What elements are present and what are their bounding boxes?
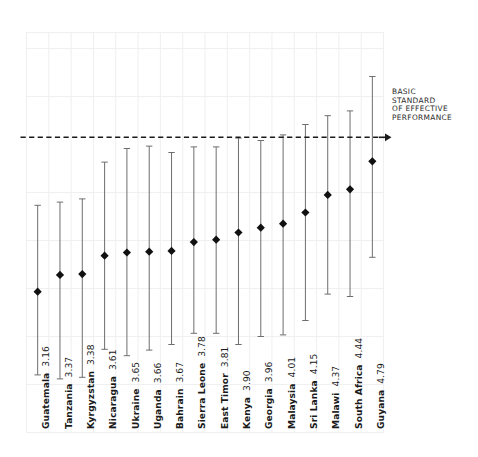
x-label-value: 3.81 xyxy=(220,347,230,368)
x-label-space xyxy=(175,383,185,389)
x-label-country: Kyrgyzstan xyxy=(86,371,96,429)
x-axis-label: Nicaragua 3.61 xyxy=(108,349,118,429)
x-axis-label: Tanzania 3.37 xyxy=(64,357,74,429)
x-axis-label: Bahrain 3.67 xyxy=(175,362,185,429)
x-axis-label: Uganda 3.66 xyxy=(153,363,163,429)
x-label-country: Sierra Leone xyxy=(197,363,207,429)
x-label-space xyxy=(220,367,230,373)
x-label-value: 4.44 xyxy=(354,338,364,359)
x-label-value: 4.37 xyxy=(331,366,341,387)
x-label-country: Sri Lanka xyxy=(309,380,319,429)
x-axis-label: Sierra Leone 3.78 xyxy=(197,336,207,429)
x-label-space xyxy=(64,377,74,383)
x-label-country: Ukraine xyxy=(131,388,141,429)
x-label-country: Malaysia xyxy=(287,383,297,429)
x-label-country: Uganda xyxy=(153,389,163,429)
x-label-value: 3.16 xyxy=(41,346,51,367)
x-axis-label: South Africa 4.44 xyxy=(354,338,364,429)
x-label-value: 3.96 xyxy=(264,362,274,383)
x-label-country: South Africa xyxy=(354,364,364,429)
x-label-space xyxy=(197,357,207,363)
x-axis-label: Kyrgyzstan 3.38 xyxy=(86,344,96,429)
x-label-space xyxy=(264,382,274,388)
x-label-country: Tanzania xyxy=(64,383,74,429)
x-axis-label: East Timor 3.81 xyxy=(220,347,230,429)
x-label-value: 4.15 xyxy=(309,354,319,375)
x-label-value: 4.01 xyxy=(287,357,297,378)
x-label-space xyxy=(309,374,319,380)
x-label-space xyxy=(287,377,297,383)
x-label-value: 3.38 xyxy=(86,344,96,365)
x-label-value: 4.79 xyxy=(376,363,386,384)
x-label-value: 3.67 xyxy=(175,362,185,383)
x-label-country: Nicaragua xyxy=(108,376,118,429)
x-label-space xyxy=(86,365,96,371)
x-axis-label: Malawi 4.37 xyxy=(331,366,341,429)
x-label-space xyxy=(354,358,364,364)
chart-figure: BASIC STANDARD OF EFFECTIVE PERFORMANCE … xyxy=(0,0,478,457)
x-label-value: 3.61 xyxy=(108,349,118,370)
x-axis-label: Guatemala 3.16 xyxy=(41,346,51,429)
x-axis-label: Guyana 4.79 xyxy=(376,363,386,429)
x-label-space xyxy=(153,383,163,389)
x-label-value: 3.66 xyxy=(153,363,163,384)
x-label-value: 3.37 xyxy=(64,357,74,378)
x-label-value: 3.78 xyxy=(197,336,207,357)
x-label-value: 3.65 xyxy=(131,362,141,383)
x-label-country: Bahrain xyxy=(175,389,185,429)
x-label-space xyxy=(242,391,252,397)
x-label-value: 3.90 xyxy=(242,370,252,391)
x-label-space xyxy=(41,367,51,373)
x-label-country: East Timor xyxy=(220,373,230,429)
x-axis-label: Sri Lanka 4.15 xyxy=(309,354,319,429)
x-axis-label: Malaysia 4.01 xyxy=(287,357,297,429)
x-axis-labels: Guatemala 3.16Tanzania 3.37Kyrgyzstan 3.… xyxy=(0,0,478,457)
x-label-country: Kenya xyxy=(242,397,252,429)
x-label-country: Guatemala xyxy=(41,373,51,429)
x-label-country: Guyana xyxy=(376,390,386,429)
x-label-space xyxy=(376,384,386,390)
x-label-country: Georgia xyxy=(264,388,274,429)
x-axis-label: Kenya 3.90 xyxy=(242,370,252,429)
x-label-space xyxy=(331,386,341,392)
x-label-space xyxy=(131,383,141,389)
x-axis-label: Georgia 3.96 xyxy=(264,362,274,429)
x-label-country: Malawi xyxy=(331,392,341,429)
x-label-space xyxy=(108,370,118,376)
x-axis-label: Ukraine 3.65 xyxy=(131,362,141,429)
